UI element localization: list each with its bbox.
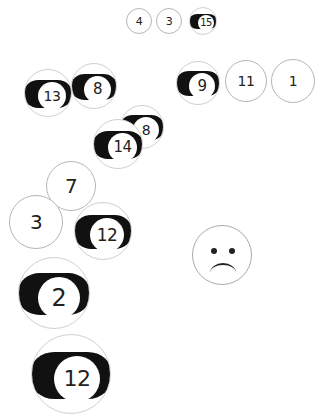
ball-number: 8 xyxy=(142,123,150,137)
ball-number: 11 xyxy=(238,74,255,88)
ball-number: 7 xyxy=(65,176,77,196)
ball-12-mid[interactable]: 12 xyxy=(74,202,132,260)
ball-number: 4 xyxy=(136,16,143,27)
ball-number: 3 xyxy=(30,212,42,232)
left-eye xyxy=(211,248,217,254)
ball-number: 15 xyxy=(200,18,212,28)
ball-15-top[interactable]: 15 xyxy=(189,7,217,35)
number-disc: 11 xyxy=(226,61,266,101)
number-disc: 4 xyxy=(127,9,151,33)
frown-mouth xyxy=(210,263,236,273)
number-disc: 14 xyxy=(108,133,137,162)
ball-number: 2 xyxy=(52,286,67,310)
ball-2[interactable]: 2 xyxy=(18,257,90,329)
ball-1[interactable]: 1 xyxy=(271,59,315,103)
number-disc: 13 xyxy=(38,82,66,110)
number-disc: 12 xyxy=(54,356,100,402)
number-disc: 3 xyxy=(10,196,62,248)
ball-11[interactable]: 11 xyxy=(225,60,267,102)
ball-number: 8 xyxy=(93,82,102,97)
number-disc: 2 xyxy=(38,277,80,319)
ball-number: 14 xyxy=(113,140,131,155)
ball-3-top[interactable]: 3 xyxy=(156,8,182,34)
ball-14[interactable]: 14 xyxy=(93,119,143,169)
ball-number: 13 xyxy=(44,89,61,103)
right-eye xyxy=(229,248,235,254)
ball-13[interactable]: 13 xyxy=(24,69,72,117)
number-disc: 8 xyxy=(84,76,111,103)
ball-4-top[interactable]: 4 xyxy=(126,8,152,34)
ball-12-bottom[interactable]: 12 xyxy=(31,334,111,414)
number-disc: 15 xyxy=(198,15,214,31)
ball-8[interactable]: 8 xyxy=(71,63,117,109)
ball-9[interactable]: 9 xyxy=(176,61,220,105)
ball-number: 9 xyxy=(197,79,206,94)
ball-number: 12 xyxy=(64,368,91,390)
number-disc: 1 xyxy=(272,60,314,102)
number-disc: 3 xyxy=(157,9,181,33)
ball-number: 12 xyxy=(97,227,118,244)
sad-face-icon xyxy=(192,225,252,285)
ball-number: 3 xyxy=(166,16,173,27)
number-disc: 9 xyxy=(189,73,215,99)
ball-3-large[interactable]: 3 xyxy=(9,195,63,249)
ball-number: 1 xyxy=(289,74,297,88)
number-disc: 12 xyxy=(90,218,124,252)
